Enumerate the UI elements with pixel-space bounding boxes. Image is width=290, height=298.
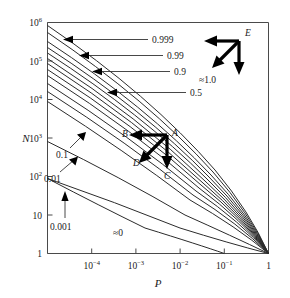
- y-tick-label-10: 10: [33, 211, 43, 221]
- arrowhead-c: [162, 156, 173, 169]
- y-tick-label-1e6: 106: [29, 16, 43, 28]
- arrowhead-e-down: [234, 62, 245, 75]
- arrowhead-e-left: [204, 36, 217, 47]
- curve-label-0999: 0.999: [152, 35, 174, 45]
- curve-label-099: 0.99: [167, 51, 184, 61]
- x-tick-label-1e-1: 10−1: [216, 259, 233, 271]
- y-axis-ticks: [48, 23, 53, 254]
- curve-label-001: 0.01: [44, 174, 61, 184]
- x-tick-label-1e-2: 10−2: [172, 259, 189, 271]
- arrow-e-diag: [219, 41, 239, 61]
- label-approx-one: ≈1.0: [199, 75, 216, 85]
- log-log-plot: 106 105 104 103 102 10 1 10−4 10−3 10−2 …: [0, 0, 290, 298]
- y-tick-labels: 106 105 104 103 102 10 1: [29, 16, 43, 259]
- arrow-cluster-e: [204, 36, 245, 76]
- curve-label-0001: 0.001: [50, 222, 72, 232]
- curve-015: [48, 92, 269, 254]
- point-label-c: C: [164, 171, 171, 181]
- y-axis-title: N: [21, 132, 30, 144]
- y-tick-label-1e3: 103: [29, 132, 43, 144]
- curve-09: [48, 42, 269, 254]
- arrowhead-001: [69, 157, 78, 166]
- y-tick-label-1e2: 102: [29, 170, 42, 182]
- y-tick-label-1: 1: [37, 249, 42, 259]
- x-tick-label-1e-4: 10−4: [83, 259, 100, 271]
- x-axis-ticks: [92, 249, 269, 254]
- arrowhead-09: [92, 68, 102, 76]
- y-tick-label-1e5: 105: [29, 55, 43, 67]
- point-label-a: A: [171, 128, 178, 138]
- curve-approx-zero: [48, 179, 225, 254]
- x-tick-label-1e-3: 10−3: [128, 259, 145, 271]
- leader-01: [70, 136, 82, 148]
- point-label-b: B: [122, 129, 128, 139]
- curve-family: [48, 26, 269, 254]
- curve-03: [48, 76, 269, 254]
- curve-label-05: 0.5: [190, 88, 202, 98]
- curve-label-approx-zero: ≈0: [113, 228, 123, 238]
- curve-001: [48, 142, 269, 254]
- curve-label-09: 0.9: [174, 67, 186, 77]
- curve-label-01: 0.1: [56, 150, 68, 160]
- x-tick-label-1: 1: [266, 261, 271, 271]
- point-label-d: D: [132, 158, 140, 168]
- y-tick-label-1e4: 104: [29, 93, 43, 105]
- x-tick-labels: 10−4 10−3 10−2 10−1 1: [83, 259, 271, 271]
- curve-08: [48, 48, 269, 254]
- point-label-e: E: [244, 28, 251, 38]
- arrowhead-0001: [61, 191, 68, 201]
- x-axis-title: P: [154, 277, 162, 289]
- figure-container: 106 105 104 103 102 10 1 10−4 10−3 10−2 …: [0, 0, 290, 298]
